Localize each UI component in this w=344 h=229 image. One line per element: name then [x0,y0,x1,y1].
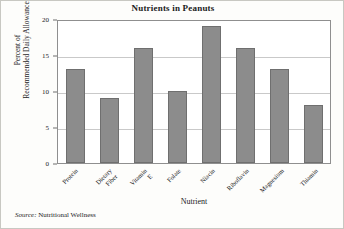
x-label-slot: Folate [160,164,194,198]
x-tick-label: Niacin [199,167,217,185]
bar-slot [296,21,330,163]
chart-title: Nutrients in Peanuts [1,3,344,13]
x-label-slot: Niacin [194,164,228,198]
bar-thiamin[interactable] [304,105,323,163]
y-tick-label: 0 [46,160,50,168]
bar-niacin[interactable] [202,26,221,163]
source-note: Source: Nutritional Wellness [15,211,96,219]
source-text: Nutritional Wellness [38,211,95,219]
y-tick-label: 5 [46,124,50,132]
x-label-slot: Dietary Fiber [91,164,125,198]
y-tick-label: 20 [42,16,49,24]
y-tick-label: 15 [42,52,49,60]
bar-slot [228,21,262,163]
bar-slot [126,21,160,163]
bar-riboflavin[interactable] [236,48,255,163]
bar-series [58,21,330,163]
bar-slot [194,21,228,163]
x-tick-label: Dietary Fiber [95,167,119,191]
x-tick-label: Protein [61,167,80,186]
x-label-slot: Magnesium [263,164,297,198]
x-tick-label: Folate [165,167,182,184]
bar-slot [92,21,126,163]
x-label-slot: Thiamin [297,164,331,198]
x-axis-title: Nutrient [57,197,331,206]
x-tick-label: Thiamin [298,167,319,188]
bar-folate[interactable] [168,91,187,163]
x-label-slot: Riboflavin [228,164,262,198]
bar-slot [160,21,194,163]
bar-vitamin-e[interactable] [134,48,153,163]
bar-dietary-fiber[interactable] [100,98,119,163]
y-tick-label: 10 [42,88,49,96]
bar-slot [58,21,92,163]
x-tick-label: Magnesium [258,167,285,194]
x-label-slot: Protein [57,164,91,198]
chart-figure: Nutrients in Peanuts Percent of Recommen… [0,0,344,229]
bar-protein[interactable] [66,69,85,163]
source-label: Source: [15,211,37,219]
x-label-slot: Vitamin E [126,164,160,198]
x-tick-label: Vitamin E [128,167,153,192]
x-axis: ProteinDietary FiberVitamin EFolateNiaci… [57,164,331,198]
plot-area [57,20,331,164]
y-axis: 05101520 [1,20,57,164]
bar-magnesium[interactable] [270,69,289,163]
x-tick-label: Riboflavin [226,167,251,192]
bar-slot [262,21,296,163]
